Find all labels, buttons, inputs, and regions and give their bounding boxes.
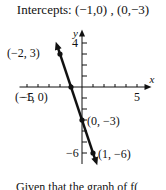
point-label: (−2, 3) bbox=[7, 46, 40, 60]
data-point bbox=[68, 84, 73, 89]
point-label: (−1, 0) bbox=[15, 90, 48, 104]
data-point bbox=[57, 51, 62, 56]
data-point bbox=[79, 117, 84, 122]
x-tick-label: 5 bbox=[134, 90, 140, 104]
graph-line bbox=[57, 46, 96, 162]
point-label: (0, −3) bbox=[87, 114, 120, 128]
y-tick-label: −6 bbox=[66, 146, 79, 160]
data-point bbox=[90, 150, 95, 155]
y-axis-arrow-icon bbox=[79, 30, 85, 37]
line-arrow-up-icon bbox=[55, 42, 62, 51]
line-chart: xy−554−6(−2, 3)(−1, 0)(0, −3)(1, −6) bbox=[0, 0, 166, 190]
point-label: (1, −6) bbox=[98, 147, 131, 161]
x-axis-label: x bbox=[149, 73, 155, 85]
caption-text: Given that the graph of f( bbox=[16, 180, 138, 190]
y-tick-label: 4 bbox=[72, 36, 78, 50]
